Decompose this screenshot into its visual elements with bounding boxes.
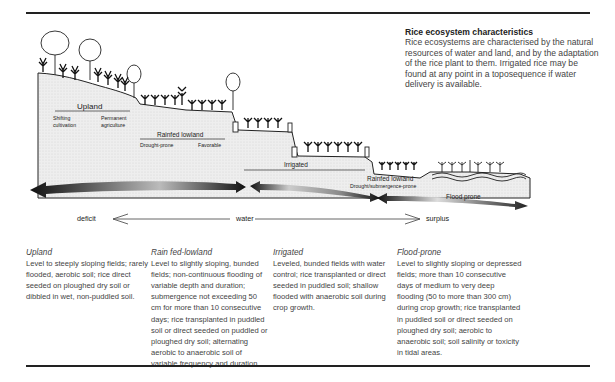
column-heading: Irrigated: [273, 247, 391, 258]
column-upland: Upland Level to steeply sloping fields; …: [26, 247, 150, 302]
zone-label-rainfed-lowland: Rainfed lowland: [157, 131, 203, 138]
label-permanent: Permanent: [101, 115, 126, 121]
label-drought-prone: Drought-prone: [140, 142, 173, 148]
label-drought-submergence: Drought/submergence-prone: [350, 183, 416, 189]
column-text: Leveled, bunded fields with water contro…: [273, 259, 386, 312]
zone-label-irrigated: Irrigated: [284, 161, 308, 168]
label-cultivation: cultivation: [53, 122, 76, 128]
column-flood-prone: Flood-prone Level to slightly sloping or…: [397, 247, 523, 358]
column-irrigated: Irrigated Leveled, bunded fields with wa…: [273, 247, 391, 314]
axis-deficit: deficit: [77, 214, 96, 223]
axis-water: water: [236, 214, 254, 223]
column-rainfed-lowland: Rain fed-lowland Level to slightly slopi…: [151, 247, 269, 369]
terrain-profile: [38, 73, 530, 198]
label-agriculture: agriculture: [101, 122, 125, 128]
axis-surplus: surplus: [426, 214, 449, 223]
column-text: Level to slightly sloping or depressed f…: [397, 259, 522, 357]
column-heading: Flood-prone: [397, 247, 523, 258]
label-shifting: Shifting: [53, 115, 70, 121]
toposequence-diagram: [0, 0, 615, 240]
label-favorable: Favorable: [198, 142, 221, 148]
column-heading: Upland: [26, 247, 150, 258]
zone-label-flood-prone: Flood prone: [446, 193, 481, 200]
zone-label-upland: Upland: [77, 102, 102, 111]
bottom-rule: [26, 365, 590, 367]
zone-label-rainfed-lowland-2: Rainfed lowland: [367, 175, 413, 182]
column-text: Level to slightly sloping, bunded fields…: [151, 259, 268, 368]
column-heading: Rain fed-lowland: [151, 247, 269, 258]
water-gradient-arrow: [113, 214, 420, 224]
column-text: Level to steeply sloping fields; rarely …: [26, 259, 148, 301]
